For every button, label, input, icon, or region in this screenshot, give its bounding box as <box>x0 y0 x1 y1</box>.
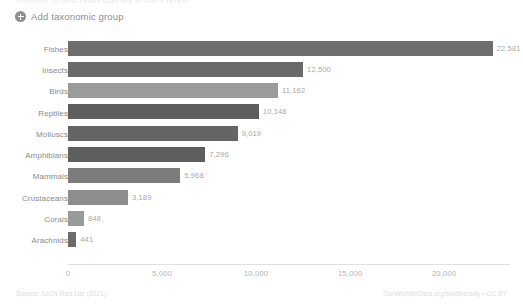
x-axis-tick-label: 0 <box>66 269 70 278</box>
chart-footer: Source: IUCN Red List (2021) OurWorldInD… <box>0 290 523 302</box>
bar-wrapper: 22,581 <box>68 41 519 56</box>
bar-wrapper: 11,162 <box>68 83 519 98</box>
bar-value-label: 848 <box>88 214 101 223</box>
bar-value-label: 9,019 <box>242 129 262 138</box>
bar-value-label: 5,968 <box>184 171 204 180</box>
bar-category-label: Crustaceans <box>22 193 68 202</box>
bar-value-label: 22,581 <box>497 44 521 53</box>
bar-value-label: 3,189 <box>132 193 152 202</box>
bar-row[interactable]: Crustaceans3,189 <box>0 187 523 208</box>
add-taxonomic-group-button[interactable]: Add taxonomic group <box>15 11 124 22</box>
bar-row[interactable]: Fishes22,581 <box>0 38 523 59</box>
bar-category-label: Amphibians <box>25 151 68 160</box>
source-text: Source: IUCN Red List (2021) <box>16 290 106 297</box>
bar-row[interactable]: Mammals5,968 <box>0 166 523 187</box>
bar-row[interactable]: Insects12,500 <box>0 59 523 80</box>
bar-value-label: 12,500 <box>307 65 331 74</box>
bar-wrapper: 12,500 <box>68 62 519 77</box>
bar-row[interactable]: Molluscs9,019 <box>0 123 523 144</box>
bar-chart-panel: Number of described species in each grou… <box>0 0 523 308</box>
plus-circle-icon <box>15 11 26 22</box>
x-axis-tick-label: 20,000 <box>432 269 456 278</box>
bar-category-label: Insects <box>42 65 68 74</box>
x-axis-tick-label: 5,000 <box>152 269 172 278</box>
bar-wrapper: 5,968 <box>68 168 519 183</box>
bar-value-label: 10,148 <box>263 107 287 116</box>
bar-category-label: Mammals <box>33 172 68 181</box>
bar-category-label: Birds <box>49 87 68 96</box>
bar[interactable] <box>68 41 493 56</box>
bar-value-label: 7,296 <box>209 150 229 159</box>
bar[interactable] <box>68 126 238 141</box>
bar-wrapper: 848 <box>68 211 519 226</box>
bar-category-label: Molluscs <box>36 129 68 138</box>
bar-category-label: Fishes <box>44 44 68 53</box>
bar-wrapper: 3,189 <box>68 190 519 205</box>
bar-row[interactable]: Birds11,162 <box>0 81 523 102</box>
x-axis: 05,00010,00015,00020,000 <box>68 264 510 286</box>
bar[interactable] <box>68 104 259 119</box>
bar-row[interactable]: Corals848 <box>0 208 523 229</box>
bar-value-label: 441 <box>80 235 93 244</box>
attribution-text[interactable]: OurWorldInData.org/biodiversity • CC BY <box>383 290 507 297</box>
plot-area: Fishes22,581Insects12,500Birds11,162Rept… <box>0 36 523 264</box>
cutoff-header-text: Number of described species in each grou… <box>17 0 189 3</box>
bar-row[interactable]: Reptiles10,148 <box>0 102 523 123</box>
bar-wrapper: 9,019 <box>68 126 519 141</box>
bar-wrapper: 441 <box>68 232 519 247</box>
bar-value-label: 11,162 <box>282 86 305 95</box>
x-axis-tick-label: 15,000 <box>338 269 362 278</box>
bar[interactable] <box>68 190 128 205</box>
bar[interactable] <box>68 83 278 98</box>
bar[interactable] <box>68 232 76 247</box>
bar[interactable] <box>68 211 84 226</box>
bar[interactable] <box>68 62 303 77</box>
bar-row[interactable]: Amphibians7,296 <box>0 144 523 165</box>
x-axis-tick-label: 10,000 <box>244 269 268 278</box>
bar-row[interactable]: Arachnids441 <box>0 230 523 251</box>
x-axis-line <box>68 264 510 265</box>
add-taxonomic-group-label: Add taxonomic group <box>31 11 124 22</box>
bar[interactable] <box>68 168 180 183</box>
bar-rows: Fishes22,581Insects12,500Birds11,162Rept… <box>0 38 523 251</box>
bar-wrapper: 7,296 <box>68 147 519 162</box>
bar-category-label: Reptiles <box>38 108 68 117</box>
bar-wrapper: 10,148 <box>68 104 519 119</box>
bar[interactable] <box>68 147 205 162</box>
bar-category-label: Arachnids <box>32 236 68 245</box>
bar-category-label: Corals <box>44 215 68 224</box>
